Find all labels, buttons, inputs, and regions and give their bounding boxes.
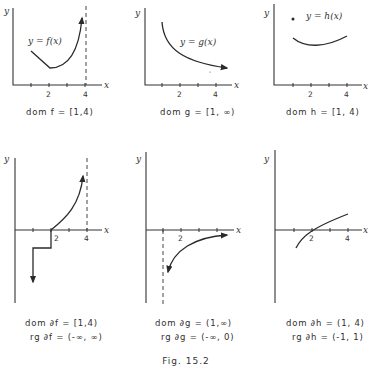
caption-rg-dh: rg ∂h = (-1, 1) bbox=[292, 332, 364, 342]
panel-df-graph: x y 2 4 bbox=[3, 154, 109, 303]
caption-dom-dh: dom ∂h = (1, 4) bbox=[286, 318, 365, 328]
panel-dh-graph: x y 2 4 bbox=[263, 150, 368, 303]
tick-label-4: 4 bbox=[84, 234, 89, 243]
curve-df-step bbox=[33, 230, 51, 282]
stray-mark bbox=[209, 71, 210, 72]
figure-canvas: x y 2 4 y = f(x) x y 2 4 y = g(x) bbox=[0, 0, 372, 366]
panel-dg-graph: x y 2 bbox=[135, 152, 241, 304]
curve-label-h: y = h(x) bbox=[305, 11, 343, 21]
caption-dom-df: dom ∂f = [1,4) bbox=[25, 318, 98, 328]
y-axis-label: y bbox=[3, 154, 10, 164]
y-axis-label: y bbox=[3, 6, 10, 16]
caption-dom-h: dom h = [1, 4) bbox=[286, 107, 360, 117]
x-axis-label: x bbox=[363, 225, 368, 235]
y-axis-label: y bbox=[135, 154, 142, 164]
figure-caption: Fig. 15.2 bbox=[0, 356, 372, 366]
y-axis-label: y bbox=[263, 8, 270, 18]
curve-label-f: y = f(x) bbox=[27, 36, 62, 46]
tick-label-2: 2 bbox=[54, 234, 59, 243]
tick-label-2: 2 bbox=[177, 90, 182, 99]
tick-label-2: 2 bbox=[46, 90, 51, 99]
panel-g-graph: x y 2 4 y = g(x) bbox=[134, 8, 239, 99]
curve-h bbox=[293, 36, 347, 45]
x-axis-label: x bbox=[104, 225, 109, 235]
x-axis-label: x bbox=[234, 80, 239, 90]
caption-rg-dg: rg ∂g = (-∞, 0) bbox=[161, 332, 234, 342]
tick-label-4: 4 bbox=[344, 90, 349, 99]
isolated-point bbox=[292, 18, 295, 21]
x-axis-label: x bbox=[363, 81, 368, 91]
x-axis-label: x bbox=[104, 80, 109, 90]
panel-f-graph: x y 2 4 y = f(x) bbox=[3, 6, 109, 99]
tick-label-2: 2 bbox=[309, 234, 314, 243]
axes bbox=[13, 8, 102, 85]
caption-dom-g: dom g = [1, ∞) bbox=[160, 107, 235, 117]
tick-label-4: 4 bbox=[345, 234, 350, 243]
caption-dom-f: dom f = [1,4) bbox=[26, 107, 94, 117]
curve-label-g: y = g(x) bbox=[179, 37, 217, 47]
tick-label-4: 4 bbox=[213, 90, 218, 99]
tick-label-2: 2 bbox=[308, 90, 313, 99]
caption-dom-dg: dom ∂g = (1,∞) bbox=[155, 318, 232, 328]
x-axis-label: x bbox=[236, 225, 241, 235]
curve-dh bbox=[296, 214, 348, 248]
curve-df-upper bbox=[51, 176, 83, 230]
caption-rg-df: rg ∂f = (-∞, ∞) bbox=[30, 332, 103, 342]
y-axis-label: y bbox=[134, 8, 141, 18]
y-axis-label: y bbox=[263, 154, 270, 164]
tick-label-4: 4 bbox=[83, 90, 88, 99]
panel-h-graph: x y 2 4 y = h(x) bbox=[263, 4, 368, 99]
curve-dg bbox=[168, 235, 227, 272]
tick-label-2: 2 bbox=[178, 234, 183, 243]
